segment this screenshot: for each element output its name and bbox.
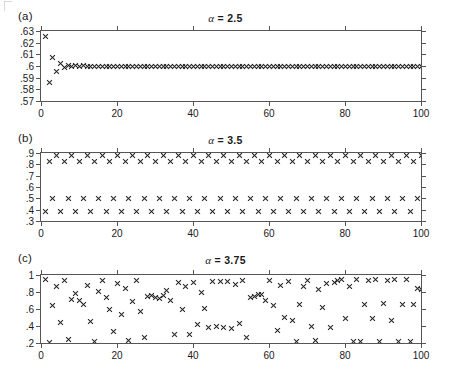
x-axis-tick-label: 0 [38,228,44,239]
x-axis-tick-label: 60 [263,108,274,119]
data-point-marker [144,153,151,159]
x-axis-tick-top [117,148,118,153]
x-axis-tick-top [41,270,42,275]
data-point-marker [197,63,204,70]
data-point-marker [129,153,136,159]
y-axis-tick [36,31,41,32]
data-point-marker [349,338,356,343]
data-point-marker [235,153,242,159]
data-point-marker [190,279,197,286]
data-point-marker [266,277,273,284]
data-point-marker [364,277,371,284]
y-axis-tick-right [421,66,426,67]
data-point-marker [209,63,216,70]
data-point-marker [231,195,238,202]
data-point-marker [53,283,60,290]
data-point-marker [368,195,375,202]
y-axis-tick-right [421,176,426,177]
data-point-marker [406,63,413,70]
data-point-marker [345,208,352,215]
data-point-marker [273,63,280,70]
data-point-marker [121,285,128,292]
data-point-marker [258,158,265,165]
data-point-marker [395,63,402,70]
panel-a: (a) α = 2.5 .57.58.59.6.61.62.6302040608… [0,8,451,130]
data-point-marker [273,158,280,165]
data-point-marker [87,318,94,325]
data-point-marker [205,324,212,331]
data-point-marker [193,63,200,70]
data-point-marker [266,63,273,70]
data-point-marker [372,63,379,70]
x-axis-tick-label: 20 [111,228,122,239]
data-point-marker [387,63,394,70]
data-point-marker [326,324,333,331]
data-point-marker [247,63,254,70]
data-point-marker [402,63,409,70]
data-point-marker [60,277,67,284]
data-point-marker [178,208,185,215]
x-axis-tick [269,221,270,226]
panel-c: (c) α = 3.75 .2.4.6.81020406080100 [0,250,451,372]
data-point-marker [45,158,52,165]
x-axis-tick [193,101,194,106]
data-point-marker [319,304,326,311]
panel-title-c: α = 3.75 [0,254,451,266]
data-point-marker [125,63,132,70]
x-axis-tick [193,221,194,226]
data-point-marker [402,153,409,159]
data-point-marker [148,292,155,299]
data-point-marker [228,325,235,332]
data-point-marker [285,63,292,70]
x-axis-tick-label: 60 [263,228,274,239]
data-point-marker [216,278,223,285]
data-point-marker [121,158,128,165]
data-point-marker [205,153,212,159]
y-axis-tick-right [421,309,426,310]
x-axis-tick-top [421,148,422,153]
data-point-marker [186,195,193,202]
plot-area-a: .57.58.59.6.61.62.63020406080100 [40,30,422,102]
data-point-marker [53,68,60,75]
data-point-marker [330,63,337,70]
data-point-marker [60,64,67,71]
data-canvas-c [41,275,421,343]
data-point-marker [224,208,231,215]
y-axis-tick-label: .7 [26,170,34,181]
data-point-marker [406,338,413,343]
x-axis-tick [41,101,42,106]
data-point-marker [311,63,318,70]
data-point-marker [72,62,79,69]
data-point-marker [414,195,421,202]
x-axis-tick-top [193,148,194,153]
data-point-marker [383,277,390,284]
data-point-marker [155,195,162,202]
data-point-marker [376,338,383,343]
data-point-marker [79,62,86,69]
data-point-marker [83,153,90,159]
y-axis-tick [36,89,41,90]
y-axis-tick-label: .61 [20,49,34,60]
data-point-marker [220,153,227,159]
data-point-marker [391,276,398,283]
data-point-marker [231,63,238,70]
data-point-marker [387,317,394,324]
data-point-marker [338,195,345,202]
data-point-marker [228,63,235,70]
data-point-marker [95,63,102,70]
data-point-marker [258,63,265,70]
data-point-marker [273,327,280,334]
data-point-marker [311,153,318,159]
x-axis-tick-label: 100 [413,108,430,119]
data-point-marker [49,54,56,61]
data-point-marker [167,63,174,70]
data-point-marker [262,195,269,202]
data-point-marker [41,208,48,215]
data-point-marker [364,63,371,70]
data-point-marker [136,63,143,70]
y-axis-tick-right [421,210,426,211]
data-point-marker [91,158,98,165]
data-point-marker [64,62,71,69]
data-point-marker [182,158,189,165]
data-point-marker [307,195,314,202]
